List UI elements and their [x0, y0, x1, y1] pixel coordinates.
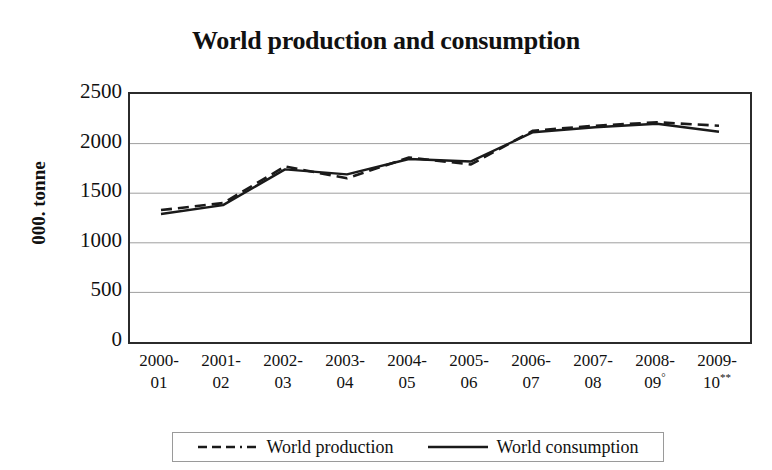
- x-tick-label: 2002-03: [252, 350, 314, 394]
- chart-legend: World productionWorld consumption: [172, 432, 664, 462]
- legend-entry: World consumption: [427, 437, 638, 458]
- chart-figure: World production and consumption 000. to…: [0, 0, 772, 470]
- series-lines: [161, 122, 719, 214]
- x-tick-label: 2005-06: [438, 350, 500, 394]
- y-tick-label: 0: [40, 329, 122, 350]
- y-axis-tick-labels: 25002000150010005000: [40, 80, 122, 352]
- legend-entry: World production: [197, 437, 393, 458]
- chart-title: World production and consumption: [0, 26, 772, 56]
- gridlines: [130, 144, 750, 293]
- legend-swatch-dashed: [197, 441, 259, 453]
- y-tick-label: 2000: [40, 131, 122, 152]
- series-line-world-consumption: [161, 124, 719, 214]
- x-axis-tick-labels: 2000-012001-022002-032003-042004-052005-…: [128, 350, 748, 412]
- y-tick-label: 1500: [40, 180, 122, 201]
- legend-label: World consumption: [496, 437, 638, 458]
- y-tick-label: 1000: [40, 230, 122, 251]
- y-tick-label: 500: [40, 279, 122, 300]
- series-line-world-production: [161, 122, 719, 210]
- x-tick-label: 2006-07: [500, 350, 562, 394]
- x-tick-label: 2009-10**: [686, 350, 748, 394]
- x-tick-label: 2004-05: [376, 350, 438, 394]
- x-tick-label: 2001-02: [190, 350, 252, 394]
- x-tick-label: 2003-04: [314, 350, 376, 394]
- plot-svg: [130, 94, 750, 342]
- y-tick-label: 2500: [40, 81, 122, 102]
- plot-area: [128, 92, 752, 344]
- x-tick-label: 2007-08: [562, 350, 624, 394]
- x-tick-label: 2000-01: [128, 350, 190, 394]
- x-tick-label: 2008-09°: [624, 350, 686, 394]
- legend-swatch-solid: [427, 441, 489, 453]
- legend-label: World production: [266, 437, 393, 458]
